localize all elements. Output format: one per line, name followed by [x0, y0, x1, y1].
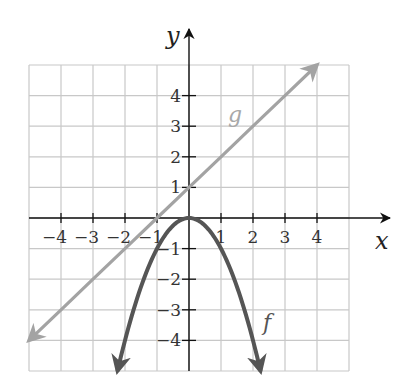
y-tick-label: −4 [156, 330, 181, 350]
g-curve-label: g [228, 102, 242, 127]
x-tick-label: −3 [74, 227, 99, 247]
x-tick-label: 3 [280, 227, 291, 247]
x-tick-label: 2 [248, 227, 259, 247]
function-graph: −4−3−2−11234−4−3−2−11234 y x g f [0, 0, 409, 380]
x-tick-label: −2 [106, 227, 131, 247]
y-tick-label: −3 [156, 300, 181, 320]
y-tick-label: 4 [170, 86, 181, 106]
x-axis-label: x [375, 227, 389, 255]
y-tick-label: 3 [170, 116, 181, 136]
x-tick-label: 4 [312, 227, 323, 247]
x-tick-label: −4 [42, 227, 67, 247]
y-tick-label: 2 [170, 147, 181, 167]
y-axis-label: y [165, 22, 180, 50]
y-tick-label: −2 [156, 269, 181, 289]
f-curve-label: f [261, 310, 275, 335]
axes [29, 29, 390, 371]
